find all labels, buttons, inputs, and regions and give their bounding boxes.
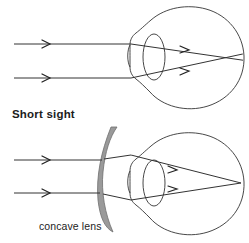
refracted-rays-bottom (131, 155, 241, 200)
incoming-rays-bottom (14, 160, 102, 193)
diagram-uncorrected-eye (14, 7, 245, 109)
refracted-ray-arrowheads-top (180, 46, 189, 75)
concave-lens-shape (98, 127, 117, 232)
diagram-corrected-eye (14, 127, 244, 235)
incoming-ray-arrowheads-top (42, 40, 50, 82)
refracted-ray-arrowheads-bottom (168, 166, 177, 192)
incoming-ray-arrowheads-bottom (42, 156, 50, 197)
incoming-rays-top (14, 44, 131, 78)
crystalline-lens-bottom (143, 160, 165, 206)
short-sight-label: Short sight (12, 109, 75, 121)
diverged-rays-bottom (103, 155, 131, 200)
concave-lens-label: concave lens (39, 221, 102, 232)
optics-figure: Short sight concave lens (0, 0, 249, 243)
eyeball-outline-bottom (128, 133, 244, 235)
optics-diagram-svg (0, 0, 249, 243)
